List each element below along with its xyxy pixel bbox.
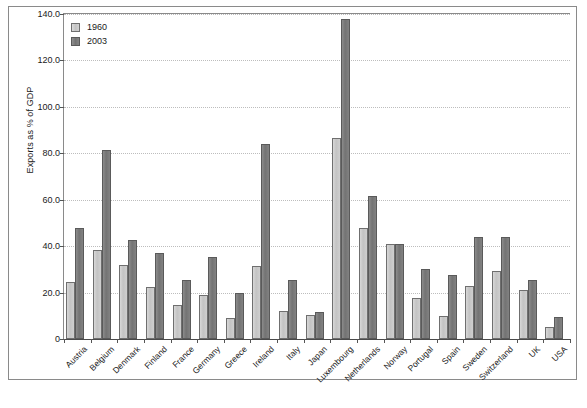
bar-luxembourg-2003 (341, 19, 350, 339)
bar-austria-2003 (75, 228, 84, 339)
bar-group (277, 14, 304, 339)
bar-group (330, 14, 357, 339)
y-tick-label: 40.0 (42, 241, 60, 251)
bar-group (171, 14, 198, 339)
bar-group (304, 14, 331, 339)
legend-swatch-1960 (71, 23, 80, 32)
bar-sweden-2003 (474, 237, 483, 339)
legend-item-2003: 2003 (71, 37, 107, 46)
y-tick-label: 140.0 (37, 9, 60, 19)
bar-belgium-2003 (102, 150, 111, 339)
bar-group (437, 14, 464, 339)
y-tick-label: 120.0 (37, 55, 60, 65)
legend-swatch-2003 (71, 37, 80, 46)
bar-group (197, 14, 224, 339)
bar-group (91, 14, 118, 339)
bar-austria-1960 (66, 282, 75, 339)
bar-group (410, 14, 437, 339)
bar-usa-2003 (554, 317, 563, 339)
y-tick-label: 0 (55, 334, 60, 344)
chart-frame: Exports as % of GDP 020.040.060.080.0100… (8, 6, 577, 380)
bar-group (490, 14, 517, 339)
bar-usa-1960 (545, 327, 554, 339)
bar-group (144, 14, 171, 339)
y-tick-label: 100.0 (37, 102, 60, 112)
bar-netherlands-1960 (359, 228, 368, 339)
bar-luxembourg-1960 (332, 138, 341, 339)
bar-group (517, 14, 544, 339)
bar-group (463, 14, 490, 339)
bar-group (384, 14, 411, 339)
y-axis-title: Exports as % of GDP (25, 45, 35, 215)
bar-group (543, 14, 570, 339)
y-tick-label: 20.0 (42, 288, 60, 298)
plot-area: 020.040.060.080.0100.0120.0140.0 (63, 13, 570, 340)
legend-label-2003: 2003 (87, 37, 107, 46)
y-tick-label: 80.0 (42, 148, 60, 158)
bars-layer (64, 14, 570, 339)
bar-ireland-2003 (261, 144, 270, 339)
legend-item-1960: 1960 (71, 23, 107, 32)
bar-japan-2003 (315, 312, 324, 339)
bar-group (250, 14, 277, 339)
x-tick-mark (64, 339, 65, 343)
legend-label-1960: 1960 (87, 23, 107, 32)
bar-group (224, 14, 251, 339)
bar-group (64, 14, 91, 339)
y-tick-label: 60.0 (42, 195, 60, 205)
bar-group (357, 14, 384, 339)
bar-group (117, 14, 144, 339)
chart-legend: 1960 2003 (71, 23, 107, 51)
